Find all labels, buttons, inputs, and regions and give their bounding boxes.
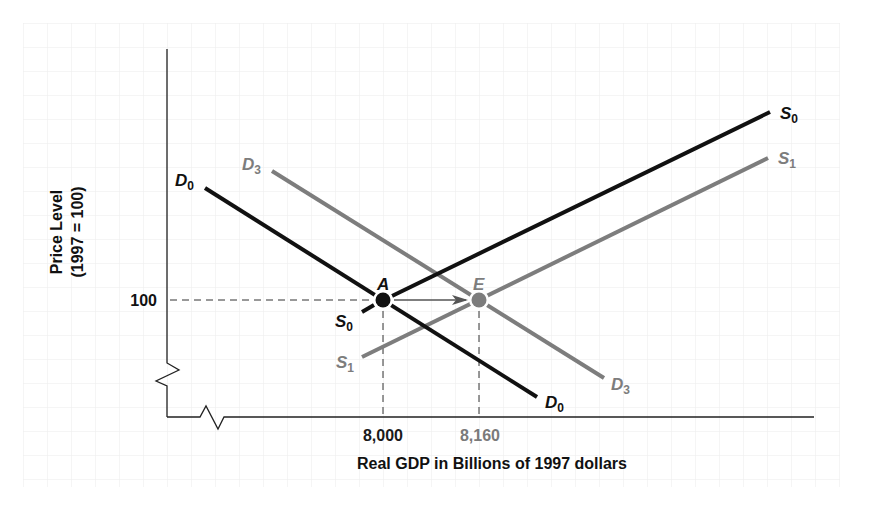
x-tick-8160: 8,160 xyxy=(460,427,500,444)
point-a xyxy=(376,293,391,308)
y-axis-title: Price Level xyxy=(48,190,65,275)
point-e xyxy=(472,293,487,308)
point-a-label: A xyxy=(376,275,389,294)
x-tick-8000: 8,000 xyxy=(363,427,403,444)
point-e-label: E xyxy=(473,275,485,294)
y-tick-100: 100 xyxy=(130,292,157,309)
x-axis-title: Real GDP in Billions of 1997 dollars xyxy=(357,455,627,472)
ad-as-chart: A E D0 D0 D3 D3 S0 S0 S1 S1 100 8,000 8,… xyxy=(0,0,870,507)
y-axis-subtitle: (1997 = 100) xyxy=(69,186,86,277)
